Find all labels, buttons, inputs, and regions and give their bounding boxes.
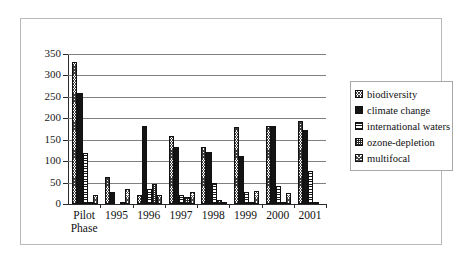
y-tick-mark xyxy=(63,204,68,205)
x-tick-mark xyxy=(326,204,327,208)
bar-multifocal[interactable] xyxy=(157,195,162,204)
chart-frame: 050100150200250300350 Pilot Phase1995199… xyxy=(20,18,442,245)
y-tick-label: 150 xyxy=(21,134,61,145)
x-category-label: 2001 xyxy=(288,209,332,222)
plot-area xyxy=(68,54,326,204)
bar-international-waters[interactable] xyxy=(83,153,88,204)
x-tick-mark xyxy=(100,204,101,208)
legend-swatch-icon xyxy=(355,106,363,114)
y-tick-mark xyxy=(63,140,68,141)
y-tick-label: 350 xyxy=(21,48,61,59)
x-tick-mark xyxy=(262,204,263,208)
bar-group xyxy=(72,54,98,204)
legend-swatch-icon xyxy=(355,122,363,130)
y-tick-mark xyxy=(63,54,68,55)
bar-group xyxy=(234,54,260,204)
bar-multifocal[interactable] xyxy=(222,202,227,204)
y-tick-mark xyxy=(63,118,68,119)
bar-group xyxy=(201,54,227,204)
bar-multifocal[interactable] xyxy=(93,195,98,204)
bar-multifocal[interactable] xyxy=(125,189,130,204)
bar-group xyxy=(298,54,324,204)
bar-international-waters[interactable] xyxy=(308,171,313,204)
legend-swatch-icon xyxy=(355,154,363,162)
y-tick-mark xyxy=(63,183,68,184)
y-tick-label: 200 xyxy=(21,112,61,123)
legend-label: ozone-depletion xyxy=(367,137,435,148)
bar-group xyxy=(137,54,163,204)
legend-swatch-icon xyxy=(355,90,363,98)
bar-multifocal[interactable] xyxy=(286,193,291,204)
bar-climate-change[interactable] xyxy=(110,192,115,204)
y-tick-label: 100 xyxy=(21,155,61,166)
y-tick-label: 0 xyxy=(21,198,61,209)
x-axis-category-labels: Pilot Phase1995199619971998199920002001 xyxy=(68,209,327,249)
bar-group xyxy=(266,54,292,204)
legend-item-multifocal[interactable]: multifocal xyxy=(355,150,448,166)
bar-multifocal[interactable] xyxy=(254,191,259,204)
legend-item-ozone-depletion[interactable]: ozone-depletion xyxy=(355,134,448,150)
y-tick-label: 300 xyxy=(21,69,61,80)
legend-label: biodiversity xyxy=(367,89,417,100)
legend-swatch-icon xyxy=(355,138,363,146)
bar-ozone-depletion[interactable] xyxy=(313,202,318,204)
legend-label: international waters xyxy=(367,121,450,132)
bar-group xyxy=(105,54,131,204)
chart-legend: biodiversityclimate changeinternational … xyxy=(350,81,453,171)
y-tick-label: 50 xyxy=(21,177,61,188)
y-tick-label: 250 xyxy=(21,91,61,102)
x-tick-mark xyxy=(294,204,295,208)
x-tick-mark xyxy=(197,204,198,208)
legend-label: climate change xyxy=(367,105,430,116)
y-tick-mark xyxy=(63,161,68,162)
x-tick-mark xyxy=(133,204,134,208)
legend-item-international-waters[interactable]: international waters xyxy=(355,118,448,134)
legend-item-climate-change[interactable]: climate change xyxy=(355,102,448,118)
x-tick-mark xyxy=(229,204,230,208)
legend-item-biodiversity[interactable]: biodiversity xyxy=(355,86,448,102)
bar-group xyxy=(169,54,195,204)
y-axis-tick-labels: 050100150200250300350 xyxy=(21,19,61,219)
bar-multifocal[interactable] xyxy=(190,192,195,204)
y-tick-mark xyxy=(63,97,68,98)
legend-label: multifocal xyxy=(367,153,410,164)
x-tick-mark xyxy=(165,204,166,208)
y-tick-mark xyxy=(63,75,68,76)
